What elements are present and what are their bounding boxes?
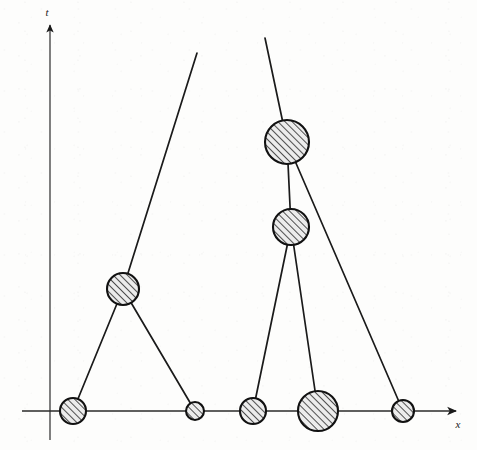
vertex-node [273,209,309,245]
vertex-node [107,273,139,305]
worldline-edge [73,289,123,411]
vertex-node [186,402,204,420]
worldline-edge [253,227,291,411]
worldline-edge [123,289,195,411]
vertex-node [392,400,414,422]
x-axis-label: x [455,418,461,430]
spacetime-diagram: t x [0,0,477,450]
worldline-edge [289,147,403,411]
worldline-edge [123,53,197,289]
vertex-nodes-group [60,120,414,431]
vertex-node [240,398,266,424]
worldline-edges-group [73,38,403,411]
vertex-node [60,398,86,424]
vertex-node [298,391,338,431]
figure-root: t x [0,0,477,450]
t-axis-label: t [45,6,49,18]
worldline-edge [291,227,318,411]
vertex-node [265,120,309,164]
